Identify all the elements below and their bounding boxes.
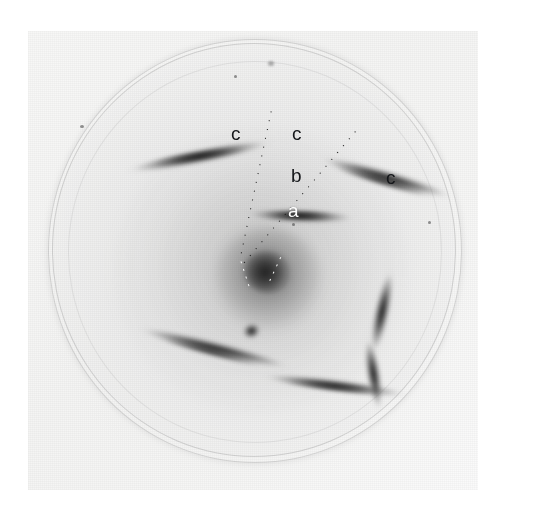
label-a: a [288, 201, 299, 220]
film-speck [292, 223, 295, 226]
label-c-left: c [231, 124, 241, 143]
photograph-print [28, 31, 478, 490]
film-speck [80, 125, 84, 128]
diffraction-figure: c c b a c [0, 0, 545, 532]
film-smudge [268, 61, 274, 66]
label-c-middle: c [292, 124, 302, 143]
film-speck [234, 75, 237, 78]
label-b: b [291, 166, 302, 185]
film-speck [428, 221, 431, 224]
label-c-right: c [386, 168, 396, 187]
